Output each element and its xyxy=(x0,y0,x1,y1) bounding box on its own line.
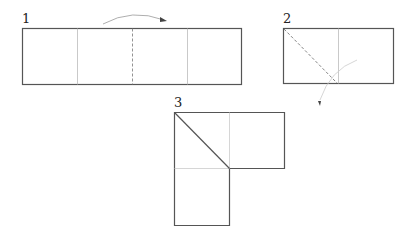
step-3: 3 xyxy=(174,95,285,226)
strip-outline xyxy=(23,29,242,85)
diagonal-fold-line xyxy=(284,29,337,83)
arrowhead-icon xyxy=(318,101,321,106)
step-1-label: 1 xyxy=(22,11,30,26)
step-2-label: 2 xyxy=(283,11,291,26)
folding-diagram: 1 2 3 xyxy=(0,0,416,237)
step-1: 1 xyxy=(22,11,242,85)
diagonal-edge xyxy=(175,113,230,169)
step-2: 2 xyxy=(283,11,394,106)
fold-arrow-icon xyxy=(103,15,164,24)
step-3-label: 3 xyxy=(174,95,182,110)
arrowhead-icon xyxy=(160,17,167,22)
